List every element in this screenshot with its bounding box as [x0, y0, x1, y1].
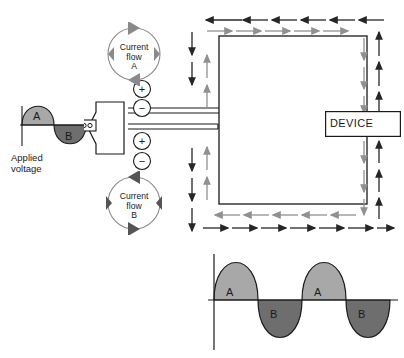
output-label-a1: A [226, 286, 234, 298]
output-lobe-b2 [346, 300, 390, 338]
output-label-b2: B [358, 308, 365, 320]
output-lobe-b1 [258, 300, 302, 338]
output-lobe-a1 [214, 263, 258, 301]
diagram-canvas: A B Appliedvoltage + − [0, 0, 404, 358]
output-waveform: A B A B [200, 252, 400, 352]
device-label: DEVICE [330, 117, 373, 129]
output-label-a2: A [314, 286, 322, 298]
output-label-b1: B [270, 308, 277, 320]
output-lobe-a2 [302, 263, 346, 301]
